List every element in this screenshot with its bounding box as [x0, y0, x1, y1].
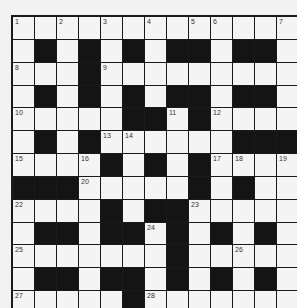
answer-cell[interactable]: 28: [145, 291, 166, 308]
answer-cell[interactable]: [233, 268, 254, 290]
answer-cell[interactable]: [167, 154, 188, 176]
answer-cell[interactable]: [233, 108, 254, 130]
answer-cell[interactable]: [255, 200, 276, 222]
answer-cell[interactable]: 20: [79, 177, 100, 199]
answer-cell[interactable]: [255, 245, 276, 267]
answer-cell[interactable]: [123, 17, 144, 39]
answer-cell[interactable]: [101, 291, 122, 308]
answer-cell[interactable]: 19: [277, 154, 297, 176]
answer-cell[interactable]: 6: [211, 17, 232, 39]
answer-cell[interactable]: [189, 131, 210, 153]
answer-cell[interactable]: 14: [123, 131, 144, 153]
answer-cell[interactable]: [189, 63, 210, 85]
answer-cell[interactable]: [145, 86, 166, 108]
answer-cell[interactable]: 2: [57, 17, 78, 39]
answer-cell[interactable]: [233, 200, 254, 222]
answer-cell[interactable]: [277, 177, 297, 199]
answer-cell[interactable]: [211, 131, 232, 153]
answer-cell[interactable]: 18: [233, 154, 254, 176]
answer-cell[interactable]: 23: [189, 200, 210, 222]
answer-cell[interactable]: [211, 200, 232, 222]
answer-cell[interactable]: 22: [13, 200, 34, 222]
answer-cell[interactable]: [57, 63, 78, 85]
answer-cell[interactable]: [189, 223, 210, 245]
answer-cell[interactable]: [123, 245, 144, 267]
answer-cell[interactable]: [13, 131, 34, 153]
answer-cell[interactable]: [79, 291, 100, 308]
answer-cell[interactable]: 1: [13, 17, 34, 39]
answer-cell[interactable]: [35, 291, 56, 308]
answer-cell[interactable]: [277, 40, 297, 62]
answer-cell[interactable]: [57, 154, 78, 176]
answer-cell[interactable]: [101, 245, 122, 267]
answer-cell[interactable]: [35, 245, 56, 267]
answer-cell[interactable]: [277, 245, 297, 267]
answer-cell[interactable]: [211, 40, 232, 62]
answer-cell[interactable]: [255, 154, 276, 176]
answer-cell[interactable]: [35, 200, 56, 222]
answer-cell[interactable]: [79, 17, 100, 39]
answer-cell[interactable]: [211, 63, 232, 85]
answer-cell[interactable]: 24: [145, 223, 166, 245]
answer-cell[interactable]: [211, 291, 232, 308]
answer-cell[interactable]: [123, 154, 144, 176]
answer-cell[interactable]: [57, 108, 78, 130]
answer-cell[interactable]: [255, 177, 276, 199]
answer-cell[interactable]: [233, 17, 254, 39]
answer-cell[interactable]: [255, 63, 276, 85]
answer-cell[interactable]: [145, 177, 166, 199]
answer-cell[interactable]: [123, 177, 144, 199]
answer-cell[interactable]: [145, 131, 166, 153]
answer-cell[interactable]: [189, 268, 210, 290]
answer-cell[interactable]: [211, 177, 232, 199]
answer-cell[interactable]: [79, 223, 100, 245]
answer-cell[interactable]: [13, 86, 34, 108]
answer-cell[interactable]: [277, 291, 297, 308]
answer-cell[interactable]: [101, 108, 122, 130]
answer-cell[interactable]: [189, 291, 210, 308]
answer-cell[interactable]: [13, 223, 34, 245]
answer-cell[interactable]: [79, 268, 100, 290]
answer-cell[interactable]: [123, 200, 144, 222]
answer-cell[interactable]: [145, 245, 166, 267]
answer-cell[interactable]: 15: [13, 154, 34, 176]
answer-cell[interactable]: [35, 63, 56, 85]
answer-cell[interactable]: 5: [189, 17, 210, 39]
answer-cell[interactable]: 3: [101, 17, 122, 39]
answer-cell[interactable]: [255, 291, 276, 308]
answer-cell[interactable]: [255, 108, 276, 130]
answer-cell[interactable]: 16: [79, 154, 100, 176]
answer-cell[interactable]: 8: [13, 63, 34, 85]
answer-cell[interactable]: [145, 40, 166, 62]
answer-cell[interactable]: [145, 268, 166, 290]
answer-cell[interactable]: 25: [13, 245, 34, 267]
answer-cell[interactable]: [277, 63, 297, 85]
answer-cell[interactable]: [277, 268, 297, 290]
answer-cell[interactable]: [277, 108, 297, 130]
answer-cell[interactable]: [167, 291, 188, 308]
answer-cell[interactable]: [101, 177, 122, 199]
answer-cell[interactable]: [57, 200, 78, 222]
answer-cell[interactable]: [233, 291, 254, 308]
answer-cell[interactable]: [57, 86, 78, 108]
answer-cell[interactable]: [35, 17, 56, 39]
answer-cell[interactable]: [167, 177, 188, 199]
answer-cell[interactable]: [145, 63, 166, 85]
answer-cell[interactable]: [35, 154, 56, 176]
answer-cell[interactable]: [277, 223, 297, 245]
answer-cell[interactable]: 4: [145, 17, 166, 39]
answer-cell[interactable]: 26: [233, 245, 254, 267]
answer-cell[interactable]: [57, 131, 78, 153]
answer-cell[interactable]: [101, 40, 122, 62]
answer-cell[interactable]: [57, 291, 78, 308]
answer-cell[interactable]: [211, 86, 232, 108]
answer-cell[interactable]: [13, 40, 34, 62]
answer-cell[interactable]: [79, 245, 100, 267]
answer-cell[interactable]: [277, 86, 297, 108]
answer-cell[interactable]: 11: [167, 108, 188, 130]
answer-cell[interactable]: [189, 245, 210, 267]
answer-cell[interactable]: [57, 245, 78, 267]
answer-cell[interactable]: [123, 63, 144, 85]
answer-cell[interactable]: 9: [101, 63, 122, 85]
answer-cell[interactable]: [167, 63, 188, 85]
